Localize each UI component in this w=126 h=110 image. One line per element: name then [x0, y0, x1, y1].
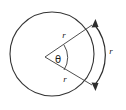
- circle-outline: [10, 12, 94, 96]
- label-angle-theta: θ: [55, 54, 61, 65]
- angle-arc-theta: [64, 45, 68, 70]
- geometry-figure: r r r θ: [0, 0, 126, 110]
- circle-radian-diagram: r r r θ: [0, 0, 126, 110]
- label-arc-length: r: [109, 46, 113, 56]
- arrow-head-top-icon: [92, 19, 99, 28]
- arc-length-double-arrow: [94, 24, 105, 86]
- label-radius-lower: r: [63, 74, 67, 84]
- label-radius-upper: r: [62, 30, 66, 40]
- radius-line-lower: [45, 57, 92, 85]
- radius-line-upper: [45, 25, 92, 57]
- arrow-head-bottom-icon: [92, 83, 99, 92]
